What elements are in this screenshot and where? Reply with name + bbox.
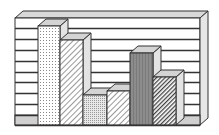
bar-front-face — [38, 26, 60, 125]
bar-front-face — [130, 53, 153, 125]
bar-front-face — [153, 77, 176, 125]
bar-6 — [153, 70, 184, 125]
bar-front-face — [107, 91, 130, 125]
bar-side-face — [176, 70, 184, 125]
wall-side-face — [200, 11, 208, 125]
bar-front-face — [60, 40, 83, 125]
bar-chart-3d — [0, 0, 219, 135]
bar-front-face — [83, 95, 107, 125]
wall-top-face — [15, 11, 208, 18]
